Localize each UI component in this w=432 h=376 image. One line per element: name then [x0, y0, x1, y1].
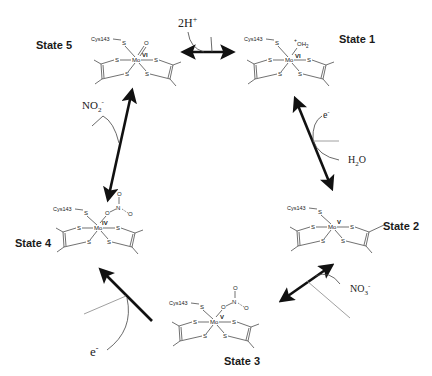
electron-in-label: e- — [90, 344, 99, 359]
state-1-complex: Cys143 S Mo VI + OH 2 S S S S — [244, 36, 334, 86]
nitrite-label: NO2- — [82, 98, 104, 114]
sulfur-atom: S — [200, 304, 204, 310]
sulfur-atom: S — [232, 319, 236, 325]
state-5-label: State 5 — [36, 39, 72, 51]
oxo-atom: O — [144, 40, 149, 46]
transition-5-1: 2H+ — [178, 15, 228, 52]
sulfur-atom: S — [223, 333, 227, 339]
oxygen-atom: O — [233, 285, 238, 291]
sulfur-atom: S — [341, 238, 345, 244]
state-4-label: State 4 — [15, 237, 52, 249]
nitrogen-atom: N — [232, 299, 236, 305]
oxidation-state: IV — [102, 220, 108, 226]
state-4-complex: Cys143 S Mo IV O N O O S S S S — [53, 191, 143, 254]
state-5-complex: Cys143 S Mo VI O S S S S — [91, 36, 181, 86]
water-label: H2O — [348, 154, 366, 168]
sulfur-atom: S — [311, 224, 315, 230]
aqua-subscript: 2 — [306, 44, 309, 49]
sulfur-atom: S — [84, 210, 88, 216]
transition-3-4: e- — [84, 273, 152, 359]
cys143-label: Cys143 — [244, 36, 263, 42]
sulfur-atom: S — [116, 225, 120, 231]
diagram-svg: Cys143 S Mo VI O S S S S State 5 Cys1 — [0, 0, 432, 376]
transition-1-2: e- H2O — [297, 103, 366, 184]
nitrogen-atom: N — [116, 205, 120, 211]
sulfur-atom: S — [268, 57, 272, 63]
state-1-label: State 1 — [339, 33, 375, 45]
cys143-label: Cys143 — [91, 36, 110, 42]
molybdenum-atom: Mo — [210, 319, 219, 325]
sulfur-atom: S — [275, 40, 279, 46]
oxidation-state: V — [337, 219, 341, 225]
sulfur-atom: S — [77, 225, 81, 231]
proton-curve — [188, 32, 204, 52]
catalytic-cycle-diagram: Cys143 S Mo VI O S S S S State 5 Cys1 — [0, 0, 432, 376]
sulfur-atom: S — [193, 319, 197, 325]
sulfur-atom: S — [318, 209, 322, 215]
oxygen-atom: O — [221, 304, 226, 310]
sulfur-atom: S — [115, 57, 119, 63]
state-2-complex: Cys143 S Mo V S S S S — [287, 205, 384, 253]
transition-2-3: NO3- — [285, 268, 371, 318]
protons-label: 2H+ — [178, 15, 198, 30]
cys143-label: Cys143 — [169, 300, 188, 306]
cys143-label: Cys143 — [287, 205, 306, 211]
state-3-complex: Cys143 S Mo V O N O O S S S S — [169, 285, 259, 348]
sulfur-atom: S — [107, 239, 111, 245]
oxygen-atom: O — [105, 210, 110, 216]
bidirectional-arrow — [109, 95, 131, 195]
nitrate-label: NO3- — [350, 282, 371, 297]
sulfur-atom: S — [154, 57, 158, 63]
sulfur-atom: S — [350, 224, 354, 230]
sulfur-atom: S — [298, 71, 302, 77]
cys143-label: Cys143 — [53, 206, 72, 212]
molybdenum-atom: Mo — [132, 57, 141, 63]
electron-curve — [107, 298, 128, 350]
nitrite-curve — [103, 116, 119, 143]
molybdenum-atom: Mo — [328, 224, 337, 230]
aqua-ligand: OH — [297, 41, 306, 47]
oxidation-state: VI — [142, 52, 148, 58]
oxygen-atom: O — [117, 191, 122, 197]
oxidation-state: VI — [295, 53, 301, 59]
state-3-label: State 3 — [224, 355, 260, 367]
sulfur-atom: S — [122, 40, 126, 46]
molybdenum-atom: Mo — [285, 57, 294, 63]
sulfur-atom: S — [145, 71, 149, 77]
electron-in-label: e- — [323, 109, 329, 120]
oxygen-atom: O — [128, 211, 133, 217]
sulfur-atom: S — [307, 57, 311, 63]
transition-4-5: NO2- — [82, 95, 131, 195]
oxidation-state: V — [220, 314, 224, 320]
oxygen-atom: O — [244, 305, 249, 311]
state-2-label: State 2 — [383, 220, 419, 232]
